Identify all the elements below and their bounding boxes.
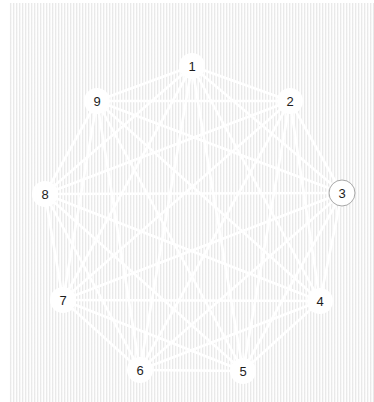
graph-node-9[interactable]: 9 (84, 88, 110, 114)
graph-edge (45, 193, 342, 194)
graph-svg[interactable]: 123456789 (0, 0, 374, 402)
graph-edge (63, 300, 140, 370)
node-label: 7 (59, 293, 66, 308)
node-label: 1 (188, 59, 195, 74)
graph-node-2[interactable]: 2 (277, 88, 303, 114)
graph-node-6[interactable]: 6 (127, 357, 153, 383)
screenshot-root: 123456789 (0, 0, 374, 402)
node-label: 9 (93, 94, 100, 109)
edge-layer (45, 66, 342, 371)
node-label: 3 (338, 186, 345, 201)
graph-edge (45, 66, 192, 194)
node-label: 2 (286, 94, 293, 109)
graph-node-7[interactable]: 7 (50, 287, 76, 313)
graph-node-8[interactable]: 8 (32, 181, 58, 207)
graph-node-5[interactable]: 5 (230, 358, 256, 384)
node-label: 5 (239, 364, 246, 379)
graph-edge (140, 370, 243, 371)
graph-edge (63, 300, 243, 371)
node-label: 4 (316, 294, 323, 309)
graph-edge (192, 66, 290, 101)
node-label: 8 (41, 187, 48, 202)
graph-edge (97, 66, 192, 101)
graph-node-3[interactable]: 3 (329, 180, 355, 206)
node-label: 6 (136, 363, 143, 378)
graph-node-1[interactable]: 1 (179, 53, 205, 79)
graph-node-4[interactable]: 4 (307, 288, 333, 314)
